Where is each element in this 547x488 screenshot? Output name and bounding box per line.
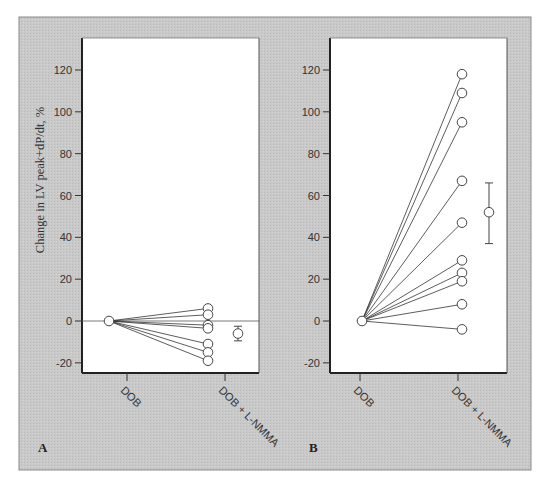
y-tick-label: 80: [308, 148, 320, 160]
subject-marker: [457, 117, 467, 127]
subject-marker: [457, 218, 467, 228]
plot-area: [330, 38, 507, 373]
y-tick-label: 0: [66, 315, 72, 327]
subject-marker: [457, 325, 467, 335]
y-tick-label: 120: [302, 64, 320, 76]
baseline-marker: [104, 316, 114, 326]
panel-letter: B: [309, 440, 318, 455]
subject-marker: [457, 176, 467, 186]
y-tick-label: 40: [308, 231, 320, 243]
subject-marker: [203, 310, 213, 320]
mean-marker: [484, 207, 494, 217]
y-tick-label: 100: [302, 106, 320, 118]
y-tick-label: 100: [54, 106, 72, 118]
y-tick-label: 60: [308, 190, 320, 202]
y-tick-label: 0: [314, 315, 320, 327]
y-tick-label: 40: [60, 231, 72, 243]
subject-marker: [457, 69, 467, 79]
y-tick-label: -20: [56, 357, 72, 369]
y-tick-label: 20: [308, 273, 320, 285]
baseline-marker: [357, 316, 367, 326]
subject-marker: [457, 276, 467, 286]
mean-marker: [233, 329, 243, 339]
chart-svg: -20020406080100120DOBDOB + L-NMMAA -2002…: [0, 0, 547, 488]
subject-marker: [457, 256, 467, 266]
panel-letter: A: [38, 440, 48, 455]
y-tick-label: -20: [304, 357, 320, 369]
subject-marker: [457, 299, 467, 309]
y-axis-label: Change in LV peak+dP/dt, %: [33, 107, 47, 253]
y-tick-label: 120: [54, 64, 72, 76]
subject-marker: [203, 356, 213, 366]
figure-container: -20020406080100120DOBDOB + L-NMMAA -2002…: [0, 0, 547, 488]
subject-marker: [203, 324, 213, 334]
subject-marker: [457, 88, 467, 98]
y-tick-label: 60: [60, 190, 72, 202]
y-tick-label: 80: [60, 148, 72, 160]
y-tick-label: 20: [60, 273, 72, 285]
